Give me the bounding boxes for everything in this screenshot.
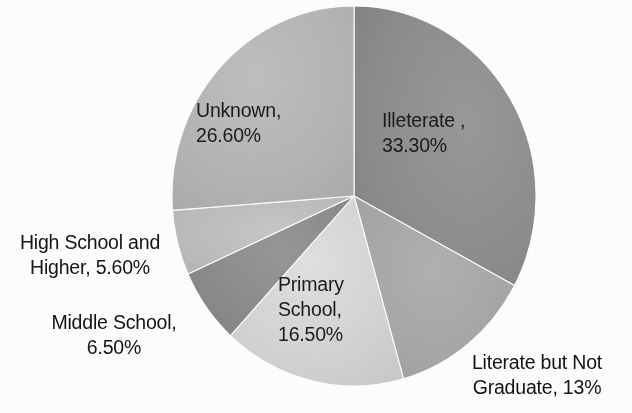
slice-label-high-school-and-higher: High School and Higher, 5.60% — [2, 230, 178, 280]
slice-label-literate-but-not-graduate: Literate but Not Graduate, 13% — [442, 350, 632, 400]
slice-label-middle-school: Middle School, 6.50% — [26, 310, 202, 360]
slice-label-unknown: Unknown, 26.60% — [196, 98, 346, 148]
slice-label-primary-school: Primary School, 16.50% — [278, 272, 390, 347]
slice-label-illeterate: Illeterate , 33.30% — [382, 108, 532, 158]
pie-chart-figure: Illeterate , 33.30% Unknown, 26.60% Prim… — [0, 0, 632, 413]
